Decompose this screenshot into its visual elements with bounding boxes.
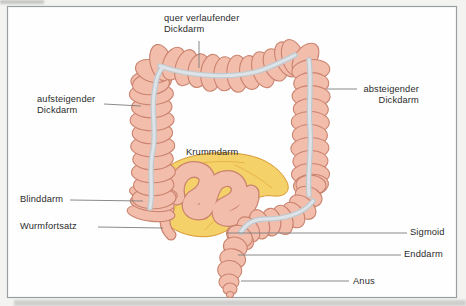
figure-page: quer verlaufender Dickdarm aufsteigender… — [0, 0, 466, 306]
label-transverse-colon: quer verlaufender Dickdarm — [164, 13, 239, 35]
label-ileum: Krummdarm — [186, 147, 239, 158]
label-appendix: Wurmfortsatz — [20, 221, 77, 232]
ileum-coil — [176, 169, 251, 218]
label-sigmoid-line1: Sigmoid — [410, 227, 445, 238]
label-rectum-line1: Enddarm — [404, 249, 443, 260]
label-anus-line1: Anus — [353, 276, 375, 287]
label-appendix-line1: Wurmfortsatz — [20, 221, 77, 232]
label-descending-colon: absteigender Dickdarm — [360, 84, 419, 106]
label-ascending-colon-line1: aufsteigender — [37, 94, 95, 105]
label-ileum-line1: Krummdarm — [186, 147, 239, 158]
label-descending-colon-line1: absteigender — [360, 84, 419, 95]
label-ascending-colon-line2: Dickdarm — [37, 105, 95, 116]
label-rectum: Enddarm — [404, 249, 443, 260]
label-cecum-line1: Blinddarm — [20, 194, 63, 205]
label-cecum: Blinddarm — [20, 194, 63, 205]
label-sigmoid: Sigmoid — [410, 227, 445, 238]
label-ascending-colon: aufsteigender Dickdarm — [37, 94, 95, 116]
label-anus: Anus — [353, 276, 375, 287]
label-descending-colon-line2: Dickdarm — [360, 95, 419, 106]
scan-artifact-bottom — [14, 300, 466, 306]
label-transverse-colon-line2: Dickdarm — [164, 24, 239, 35]
label-transverse-colon-line1: quer verlaufender — [164, 13, 239, 24]
